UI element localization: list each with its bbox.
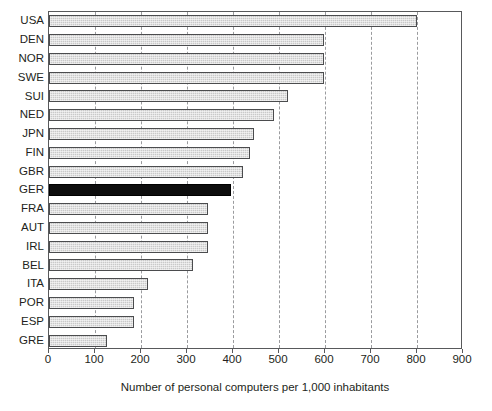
y-axis-label-fin: FIN [0, 146, 44, 158]
y-axis-label-gbr: GBR [0, 165, 44, 177]
bar-row [49, 143, 463, 162]
bar-bel [49, 259, 193, 271]
bar-gre [49, 335, 107, 347]
bar-row [49, 312, 463, 331]
bar-gbr [49, 166, 243, 178]
bar-row [49, 331, 463, 350]
y-axis-labels: USADENNORSWESUINEDJPNFINGBRGERFRAAUTIRLB… [0, 11, 44, 349]
bar-row [49, 256, 463, 275]
bar-aut [49, 222, 208, 234]
x-tick-label: 400 [222, 352, 241, 366]
bar-row [49, 87, 463, 106]
y-axis-label-usa: USA [0, 14, 44, 26]
x-tick-label: 600 [314, 352, 333, 366]
x-tick-label: 200 [130, 352, 149, 366]
y-axis-label-jpn: JPN [0, 127, 44, 139]
bar-jpn [49, 128, 254, 140]
x-tick-label: 900 [452, 352, 471, 366]
y-axis-label-aut: AUT [0, 221, 44, 233]
bars-layer [49, 12, 461, 348]
bar-row [49, 12, 463, 31]
y-axis-label-nor: NOR [0, 52, 44, 64]
bar-row [49, 125, 463, 144]
bar-row [49, 200, 463, 219]
x-tick-label: 100 [84, 352, 103, 366]
bar-nor [49, 53, 324, 65]
bar-ned [49, 109, 274, 121]
bar-ita [49, 278, 148, 290]
bar-row [49, 275, 463, 294]
y-axis-label-irl: IRL [0, 240, 44, 252]
bar-fra [49, 203, 208, 215]
bar-den [49, 34, 324, 46]
bar-irl [49, 241, 208, 253]
plot-area [48, 11, 462, 349]
bar-row [49, 237, 463, 256]
bar-row [49, 181, 463, 200]
bar-row [49, 106, 463, 125]
bar-sui [49, 90, 288, 102]
bar-row [49, 162, 463, 181]
bar-row [49, 68, 463, 87]
bar-row [49, 219, 463, 238]
y-axis-label-ned: NED [0, 108, 44, 120]
y-axis-label-den: DEN [0, 33, 44, 45]
bar-por [49, 297, 134, 309]
y-axis-label-ita: ITA [0, 277, 44, 289]
bar-usa [49, 15, 417, 27]
x-tick-label: 300 [176, 352, 195, 366]
y-axis-label-bel: BEL [0, 259, 44, 271]
y-axis-label-swe: SWE [0, 71, 44, 83]
y-axis-label-fra: FRA [0, 202, 44, 214]
y-axis-label-por: POR [0, 296, 44, 308]
bar-row [49, 50, 463, 69]
bar-ger [49, 184, 231, 196]
bar-swe [49, 72, 324, 84]
bar-esp [49, 316, 134, 328]
x-axis-title: Number of personal computers per 1,000 i… [48, 381, 462, 393]
bar-row [49, 31, 463, 50]
y-axis-label-esp: ESP [0, 315, 44, 327]
x-tick-label: 0 [45, 352, 51, 366]
x-tick-label: 700 [360, 352, 379, 366]
y-axis-label-ger: GER [0, 183, 44, 195]
bar-row [49, 294, 463, 313]
x-tick-label: 800 [406, 352, 425, 366]
y-axis-label-sui: SUI [0, 90, 44, 102]
y-axis-label-gre: GRE [0, 334, 44, 346]
x-tick-label: 500 [268, 352, 287, 366]
bar-chart: USADENNORSWESUINEDJPNFINGBRGERFRAAUTIRLB… [0, 0, 492, 411]
bar-fin [49, 147, 250, 159]
x-axis-tick-labels: 0100200300400500600700800900 [0, 352, 492, 368]
